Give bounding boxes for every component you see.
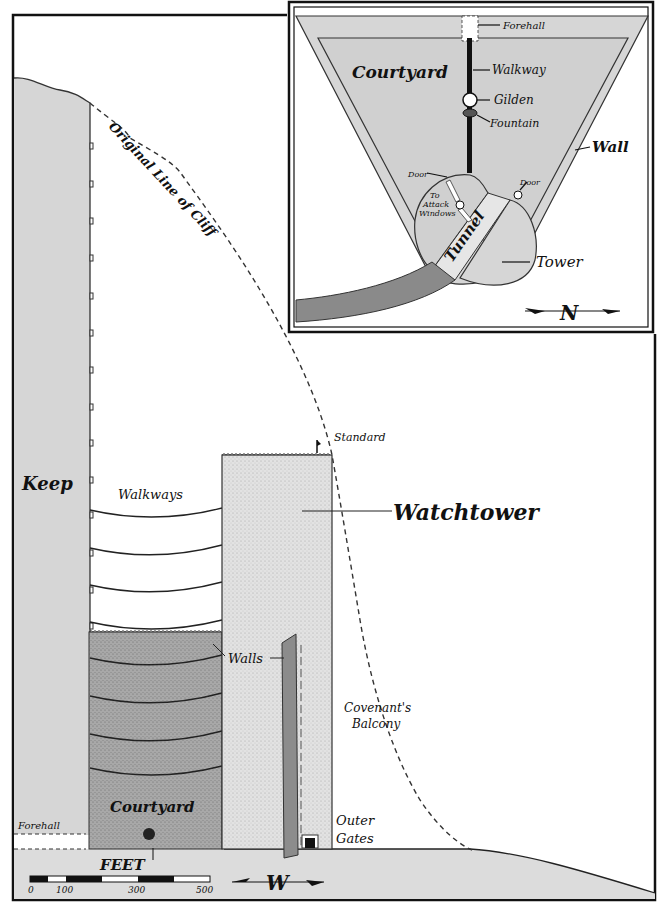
fountain-icon (463, 109, 477, 117)
label-original-cliff: Original Line of Cliff (106, 119, 221, 241)
compass-letter-w: W (266, 871, 291, 895)
inset-label-door-left: Door (407, 170, 429, 179)
label-covenants-balcony-2: Balcony (351, 717, 400, 731)
label-outer-gates-1: Outer (336, 813, 375, 828)
inset-label-to-attack-2: Attack (422, 200, 449, 209)
label-outer-gates-2: Gates (336, 831, 374, 846)
scale-unit-label: FEET (99, 856, 147, 874)
label-forehall: Forehall (17, 820, 60, 831)
inset-label-to-attack-1: To (430, 191, 440, 200)
castle-map: Original Line of Cliff Keep Walkways Sta… (0, 0, 667, 915)
inset-label-forehall: Forehall (502, 20, 545, 31)
label-walls: Walls (228, 651, 263, 666)
label-watchtower: Watchtower (393, 499, 540, 525)
inset-label-gilden: Gilden (494, 93, 534, 107)
inset-label-wall: Wall (592, 138, 629, 156)
scale-tick-300: 300 (128, 885, 145, 895)
inset-label-tower: Tower (536, 253, 584, 271)
label-courtyard: Courtyard (110, 798, 195, 816)
inset-label-fountain: Fountain (489, 117, 539, 130)
inner-wall (282, 634, 298, 858)
inset-label-walkway: Walkway (492, 63, 546, 77)
inset-label-courtyard: Courtyard (352, 62, 448, 82)
inset-plan-view: N Forehall Courtyard Walkway Gilden Foun… (287, 0, 667, 334)
tree-icon (143, 828, 155, 840)
label-standard: Standard (334, 431, 386, 444)
scale-tick-500: 500 (196, 885, 213, 895)
label-covenants-balcony-1: Covenant's (344, 701, 411, 715)
compass-letter-n: N (559, 301, 579, 325)
label-walkways: Walkways (118, 487, 183, 502)
gilden-icon (463, 93, 477, 107)
scale-tick-100: 100 (56, 885, 73, 895)
label-keep: Keep (21, 473, 73, 494)
inset-label-door-right: Door (519, 178, 541, 187)
scale-tick-0: 0 (28, 885, 34, 895)
inset-label-to-attack-3: Windows (419, 209, 456, 218)
keep (14, 78, 90, 835)
